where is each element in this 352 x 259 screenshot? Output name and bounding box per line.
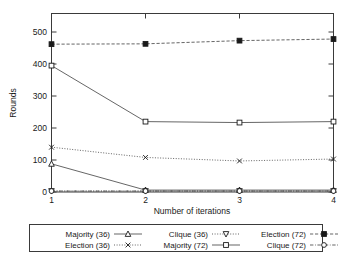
data-point-marker-square [237,38,242,43]
y-axis-ticks [52,32,334,192]
x-axis-title: Number of iterations [154,206,231,216]
data-point-marker-square [49,42,54,47]
data-series-layer [49,37,337,194]
data-point-marker-circle [331,189,336,194]
series-clique-72 [49,189,336,194]
series-line [52,147,334,161]
data-point-marker-square [143,41,148,46]
y-tick-label-300: 300 [33,91,47,101]
y-tick-label-100: 100 [33,155,47,165]
y-tick-label-0: 0 [42,187,47,197]
series-majority-36 [49,161,337,193]
x-axis-tick-labels: 1 2 3 4 [49,195,336,205]
x-axis-ticks [52,14,334,193]
data-point-marker-circle [143,189,148,194]
x-tick-label-1: 1 [49,195,54,205]
data-point-marker-square [49,63,54,68]
data-point-marker-square [143,119,148,124]
y-tick-label-400: 400 [33,59,47,69]
legend-label-election-72: Election (72) [261,230,306,239]
series-election-36 [49,145,336,164]
data-point-marker-circle [237,189,242,194]
y-tick-label-200: 200 [33,123,47,133]
plot-frame [52,14,334,193]
series-line [52,164,334,190]
y-axis-tick-labels: 0 100 200 300 400 500 [33,27,47,197]
data-point-marker-square [237,120,242,125]
legend-label-clique-72: Clique (72) [267,241,306,250]
data-point-marker-triangle-up [49,161,55,166]
x-tick-label-2: 2 [143,195,148,205]
series-election-72 [49,37,336,47]
data-point-marker-circle [322,243,327,248]
series-line [52,39,334,44]
legend-entries: Majority (36)Election (36)Clique (36)Maj… [65,230,338,250]
data-point-marker-square [224,243,229,248]
data-point-marker-square [322,232,327,237]
series-majority-72 [49,63,336,125]
y-axis-title: Rounds [8,88,18,117]
legend-label-election-36: Election (36) [65,241,110,250]
legend-label-clique-36: Clique (36) [169,230,208,239]
data-point-marker-square [331,37,336,42]
legend-label-majority-72: Majority (72) [164,241,209,250]
legend-label-majority-36: Majority (36) [66,230,111,239]
series-line [52,66,334,123]
x-tick-label-4: 4 [331,195,336,205]
rounds-vs-iterations-chart: 0 100 200 300 400 500 1 2 3 4 Number of … [0,0,352,259]
legend: Majority (36)Election (36)Clique (36)Maj… [30,225,339,252]
data-point-marker-square [331,119,336,124]
data-point-marker-circle [49,189,54,194]
y-tick-label-500: 500 [33,27,47,37]
x-tick-label-3: 3 [237,195,242,205]
